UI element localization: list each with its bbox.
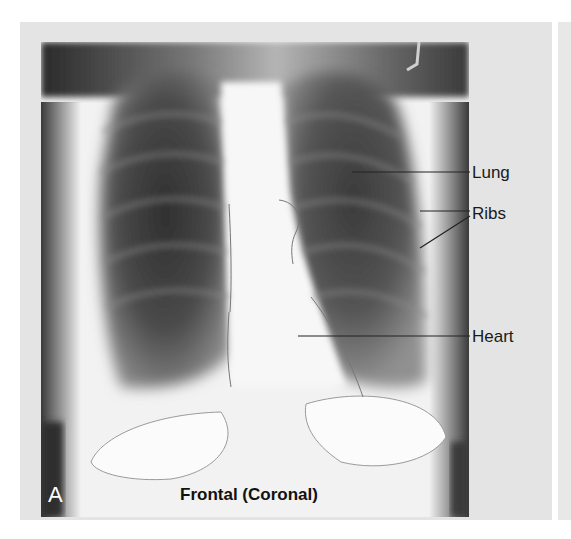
label-lung: Lung (472, 164, 510, 181)
label-ribs: Ribs (472, 205, 506, 222)
adjacent-panel-edge (558, 22, 571, 520)
label-heart: Heart (472, 328, 514, 345)
panel-letter: A (48, 484, 63, 506)
figure-caption: Frontal (Coronal) (180, 486, 318, 503)
chest-xray-image (41, 42, 469, 517)
